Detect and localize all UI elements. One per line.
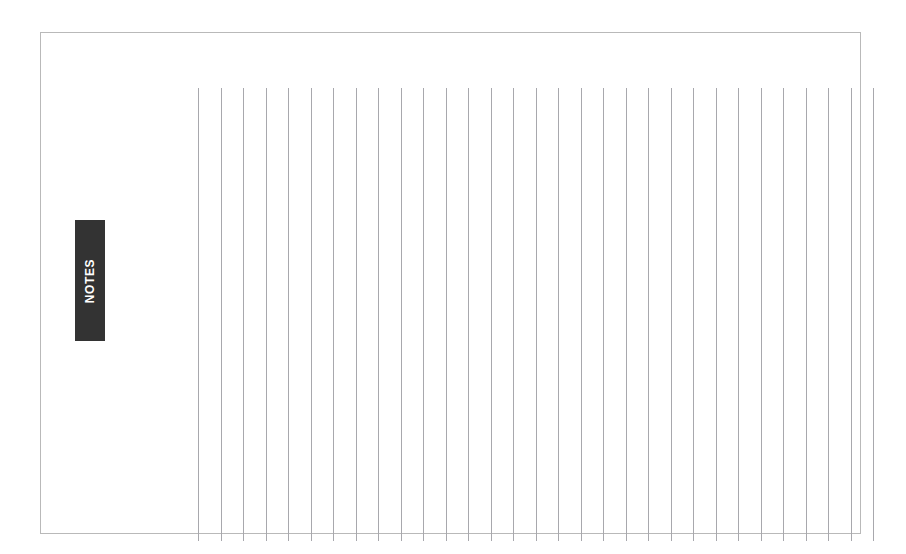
rule-line <box>851 88 852 541</box>
rule-line <box>468 88 469 541</box>
rule-line <box>581 88 582 541</box>
rule-line <box>311 88 312 541</box>
rule-line <box>446 88 447 541</box>
notes-tab: NOTES <box>75 220 105 341</box>
rule-line <box>401 88 402 541</box>
rule-line <box>626 88 627 541</box>
rule-line <box>693 88 694 541</box>
notes-tab-label: NOTES <box>84 258 96 302</box>
rule-line <box>783 88 784 541</box>
rule-line <box>806 88 807 541</box>
rule-line <box>333 88 334 541</box>
rule-line <box>671 88 672 541</box>
rule-line <box>491 88 492 541</box>
notes-page: NOTES <box>0 0 906 554</box>
vertical-ruled-writing-area[interactable] <box>198 88 874 541</box>
rule-line <box>761 88 762 541</box>
rule-line <box>221 88 222 541</box>
rule-line <box>288 88 289 541</box>
rule-line <box>536 88 537 541</box>
rule-line <box>356 88 357 541</box>
rule-line <box>423 88 424 541</box>
rule-line <box>378 88 379 541</box>
rule-line <box>558 88 559 541</box>
rule-line <box>198 88 199 541</box>
rule-line <box>513 88 514 541</box>
rule-line <box>738 88 739 541</box>
rule-line <box>828 88 829 541</box>
rule-line <box>603 88 604 541</box>
notes-sheet <box>40 32 861 534</box>
rule-line <box>716 88 717 541</box>
rule-line <box>873 88 874 541</box>
rule-line <box>648 88 649 541</box>
rule-line <box>266 88 267 541</box>
rule-line <box>243 88 244 541</box>
